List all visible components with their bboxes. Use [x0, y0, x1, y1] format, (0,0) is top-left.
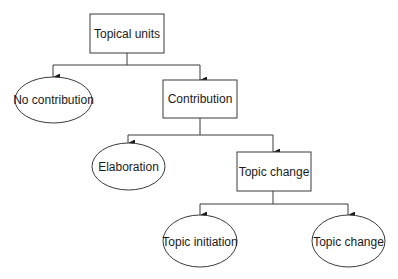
taxonomy-tree-diagram: Topical units No contribution Contributi… [0, 0, 398, 279]
node-topical-units: Topical units [90, 14, 164, 53]
node-topical-units-label: Topical units [94, 27, 160, 41]
node-topic-change-box: Topic change [237, 152, 311, 191]
node-topic-change-box-label: Topic change [239, 165, 310, 179]
edges-topical-units [53, 53, 200, 80]
node-topic-change-leaf: Topic change [312, 215, 385, 267]
node-no-contribution: No contribution [13, 77, 94, 123]
node-topic-change-leaf-label: Topic change [313, 235, 384, 249]
node-contribution: Contribution [163, 80, 237, 118]
edges-topic-change [200, 191, 348, 215]
node-topic-initiation-label: Topic initiation [162, 235, 237, 249]
node-contribution-label: Contribution [168, 92, 233, 106]
node-topic-initiation: Topic initiation [162, 215, 237, 267]
node-elaboration: Elaboration [92, 143, 165, 190]
node-no-contribution-label: No contribution [13, 93, 94, 107]
node-elaboration-label: Elaboration [98, 160, 159, 174]
